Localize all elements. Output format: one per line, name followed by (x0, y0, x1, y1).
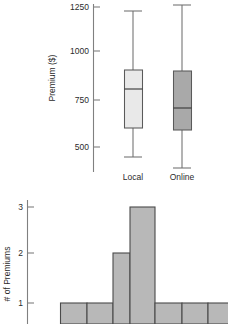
figure-panel: 1250 1000 750 500 Premium ($) Local Onli… (0, 0, 228, 324)
histogram-bar (87, 303, 113, 324)
histogram-bar (113, 253, 130, 324)
histogram-chart: 3 2 1 # of Premiums (0, 186, 228, 324)
boxplot-chart: 1250 1000 750 500 Premium ($) Local Onli… (0, 0, 228, 186)
local-box-rect (125, 70, 143, 128)
histogram-bar (155, 303, 182, 324)
histogram-bars (61, 207, 229, 324)
boxplot-box-local (124, 11, 143, 157)
histogram-ytick-label-2: 2 (18, 248, 23, 258)
boxplot-ytick-label-500: 500 (75, 142, 89, 152)
boxplot-box-online (173, 5, 192, 168)
boxplot-ytick-label-750: 750 (75, 95, 89, 105)
histogram-bar (182, 303, 208, 324)
boxplot-category-label-online: Online (170, 172, 195, 182)
boxplot-ytick-label-1000: 1000 (70, 46, 89, 56)
boxplot-category-label-local: Local (123, 172, 143, 182)
histogram-ytick-label-3: 3 (18, 202, 23, 212)
online-box-rect (174, 71, 192, 130)
histogram-ytick-label-1: 1 (18, 298, 23, 308)
histogram-y-axis-title: # of Premiums (2, 247, 12, 302)
boxplot-y-axis-title: Premium ($) (47, 54, 57, 101)
histogram-bar (61, 303, 88, 324)
histogram-bar (130, 207, 155, 324)
boxplot-ytick-label-1250: 1250 (70, 2, 89, 12)
histogram-bar (208, 303, 228, 324)
